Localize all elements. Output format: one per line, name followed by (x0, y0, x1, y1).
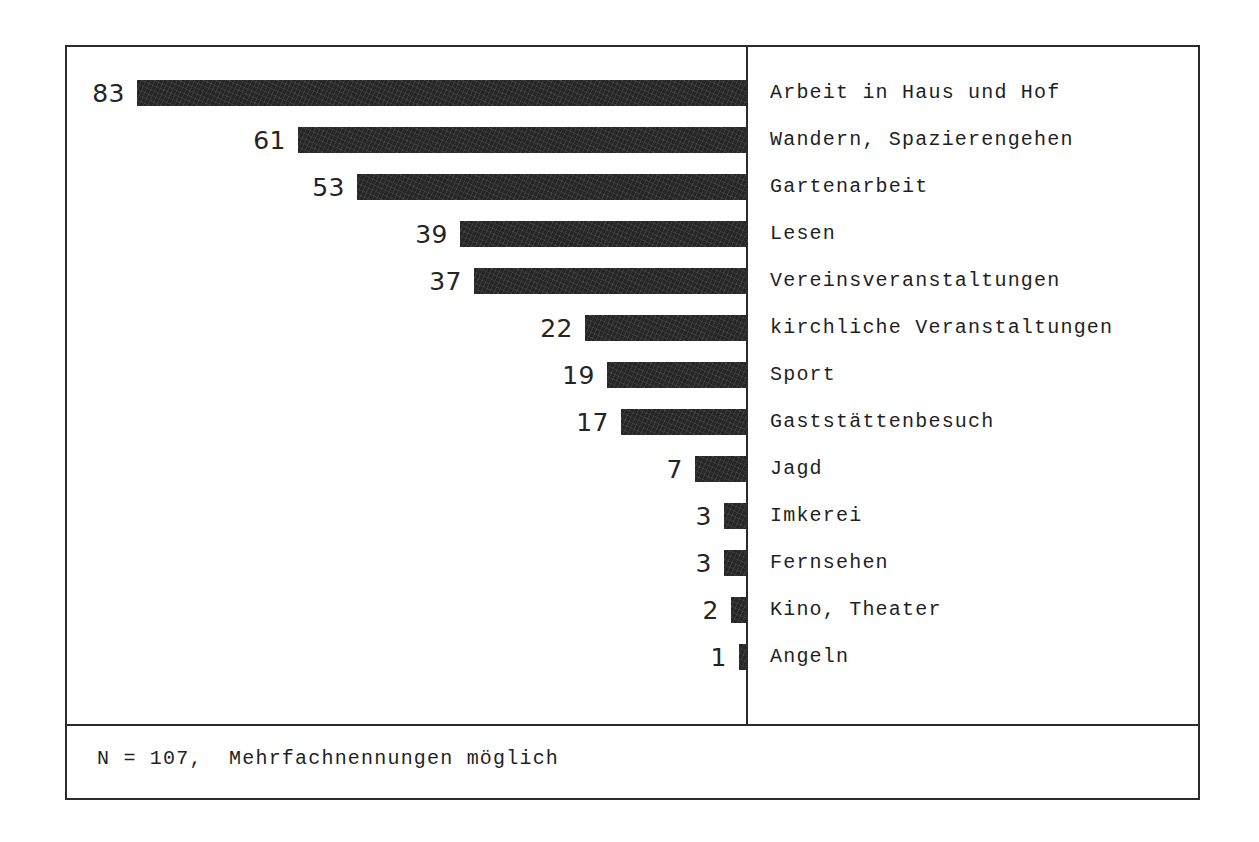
bar-row: 7Jagd (67, 456, 1198, 482)
bar-value-label: 3 (67, 504, 712, 529)
bar-category-label: Gaststättenbesuch (770, 412, 994, 432)
bar-value-label: 22 (67, 316, 573, 341)
footnote-divider (67, 724, 1198, 726)
bar-row: 17Gaststättenbesuch (67, 409, 1198, 435)
bar-category-label: Vereinsveranstaltungen (770, 271, 1060, 291)
bar-category-label: Angeln (770, 647, 849, 667)
bar-value-label: 17 (67, 410, 609, 435)
bar-rect (585, 315, 746, 341)
bar-row: 37Vereinsveranstaltungen (67, 268, 1198, 294)
bar-value-label: 3 (67, 551, 712, 576)
bar-row: 3Fernsehen (67, 550, 1198, 576)
bar-category-label: Arbeit in Haus und Hof (770, 83, 1060, 103)
bar-category-label: Sport (770, 365, 836, 385)
bar-rect (357, 174, 746, 200)
bar-value-label: 7 (67, 457, 683, 482)
plot-area: 83Arbeit in Haus und Hof61Wandern, Spazi… (67, 47, 1198, 724)
bar-row: 39Lesen (67, 221, 1198, 247)
bar-category-label: Gartenarbeit (770, 177, 928, 197)
bar-value-label: 1 (67, 645, 727, 670)
bar-rect (137, 80, 746, 106)
bar-rect (460, 221, 746, 247)
bar-rect (474, 268, 746, 294)
bar-row: 1Angeln (67, 644, 1198, 670)
bar-value-label: 19 (67, 363, 595, 388)
bar-row: 83Arbeit in Haus und Hof (67, 80, 1198, 106)
bar-category-label: Lesen (770, 224, 836, 244)
bar-value-label: 53 (67, 175, 345, 200)
bar-row: 61Wandern, Spazierengehen (67, 127, 1198, 153)
chart-frame: 83Arbeit in Haus und Hof61Wandern, Spazi… (65, 45, 1200, 800)
bar-row: 2Kino, Theater (67, 597, 1198, 623)
bar-value-label: 39 (67, 222, 448, 247)
footnote-text: N = 107, Mehrfachnennungen möglich (97, 747, 559, 770)
bar-category-label: Wandern, Spazierengehen (770, 130, 1074, 150)
bar-category-label: Imkerei (770, 506, 862, 526)
bar-rect (731, 597, 746, 623)
bar-row: 19Sport (67, 362, 1198, 388)
bar-rect (621, 409, 746, 435)
bar-category-label: kirchliche Veranstaltungen (770, 318, 1113, 338)
bar-row: 22kirchliche Veranstaltungen (67, 315, 1198, 341)
bar-category-label: Fernsehen (770, 553, 889, 573)
bar-row: 53Gartenarbeit (67, 174, 1198, 200)
bar-row: 3Imkerei (67, 503, 1198, 529)
bar-rect (724, 550, 746, 576)
bar-value-label: 2 (67, 598, 719, 623)
bar-rect (724, 503, 746, 529)
bar-rect (695, 456, 746, 482)
bar-category-label: Jagd (770, 459, 823, 479)
bar-value-label: 61 (67, 128, 286, 153)
bar-category-label: Kino, Theater (770, 600, 942, 620)
bar-rect (739, 644, 746, 670)
bar-rect (607, 362, 746, 388)
bar-rect (298, 127, 746, 153)
bar-value-label: 83 (67, 81, 125, 106)
bar-value-label: 37 (67, 269, 462, 294)
